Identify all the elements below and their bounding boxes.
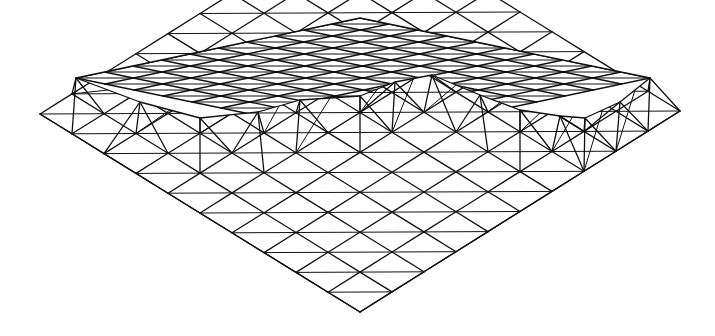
frame-member	[365, 108, 393, 114]
frame-member	[360, 212, 392, 232]
frame-member	[422, 114, 451, 120]
frame-member	[328, 272, 360, 292]
frame-member	[328, 252, 360, 272]
frame-member	[392, 152, 424, 172]
frame-member	[360, 232, 392, 252]
frame-member	[424, 132, 456, 152]
frame-member	[296, 233, 328, 253]
frame-member	[488, 0, 520, 12]
upper-grid-members	[76, 18, 650, 138]
frame-member	[328, 192, 360, 212]
frame-member	[168, 14, 200, 34]
frame-member	[296, 133, 328, 153]
frame-member	[296, 113, 328, 133]
frame-member	[264, 193, 296, 213]
frame-member	[264, 13, 296, 33]
frame-member	[360, 252, 392, 272]
frame-member	[296, 153, 328, 173]
frame-member	[200, 193, 232, 213]
frame-member	[168, 34, 200, 54]
frame-member	[392, 252, 424, 272]
frame-member	[337, 126, 365, 132]
frame-member	[392, 132, 424, 152]
frame-member	[296, 98, 330, 153]
frame-member	[360, 0, 392, 13]
space-frame-drawing	[0, 0, 715, 336]
frame-member	[360, 96, 392, 132]
frame-member	[424, 232, 456, 252]
frame-member	[232, 193, 264, 213]
frame-member	[520, 32, 552, 52]
frame-member	[392, 172, 424, 192]
frame-member	[168, 133, 200, 153]
frame-member	[307, 114, 336, 120]
frame-member	[232, 153, 264, 173]
frame-member	[424, 172, 456, 192]
frame-member	[488, 12, 520, 32]
frame-member	[456, 192, 488, 212]
frame-member	[360, 132, 392, 152]
frame-member	[360, 272, 392, 292]
frame-member	[424, 212, 456, 232]
frame-member	[296, 173, 328, 193]
frame-member	[264, 113, 296, 133]
frame-member	[264, 233, 296, 253]
frame-member	[40, 94, 72, 114]
frame-member	[520, 113, 540, 132]
frame-member	[456, 0, 488, 12]
frame-member	[104, 134, 136, 154]
frame-member	[488, 192, 520, 212]
frame-member	[200, 173, 232, 193]
frame-member	[72, 94, 104, 114]
frame-member	[360, 113, 392, 133]
frame-member	[360, 92, 392, 112]
frame-member	[488, 103, 500, 112]
frame-member	[456, 212, 488, 232]
frame-member	[360, 172, 392, 192]
frame-member	[200, 153, 232, 173]
frame-member	[232, 133, 264, 153]
frame-member	[451, 108, 480, 114]
frame-member	[328, 212, 360, 232]
frame-member	[296, 193, 328, 213]
frame-member	[72, 114, 104, 134]
roof-occluder	[76, 18, 650, 118]
frame-member	[392, 112, 424, 132]
frame-member	[168, 173, 200, 193]
frame-member	[488, 152, 520, 172]
frame-member	[488, 172, 520, 192]
frame-member	[488, 132, 520, 152]
frame-member	[136, 153, 168, 173]
frame-member	[232, 173, 264, 193]
frame-member	[394, 126, 422, 132]
frame-member	[300, 100, 328, 133]
frame-member	[264, 213, 296, 233]
frame-member	[456, 172, 488, 192]
frame-member	[424, 192, 456, 212]
frame-member	[328, 232, 360, 252]
frame-member	[392, 0, 424, 13]
frame-member	[488, 112, 520, 132]
frame-member	[456, 12, 488, 32]
frame-member	[360, 192, 392, 212]
frame-member	[264, 153, 296, 173]
frame-member	[328, 152, 360, 172]
frame-member	[200, 14, 232, 34]
space-frame-figure: Space frame wireframe drawing	[0, 0, 715, 336]
frame-member	[136, 34, 168, 54]
frame-member	[296, 212, 328, 232]
frame-member	[520, 132, 552, 152]
upper-grid-layer	[76, 18, 650, 138]
frame-member	[456, 95, 480, 132]
frame-member	[328, 133, 360, 153]
frame-member	[520, 172, 552, 192]
frame-member	[456, 132, 488, 152]
frame-member	[424, 12, 456, 32]
frame-member	[552, 116, 560, 152]
frame-member	[232, 0, 264, 13]
frame-member	[296, 252, 328, 272]
frame-member	[392, 232, 424, 252]
frame-member	[392, 192, 424, 212]
frame-member	[328, 0, 360, 13]
frame-member	[394, 120, 423, 126]
